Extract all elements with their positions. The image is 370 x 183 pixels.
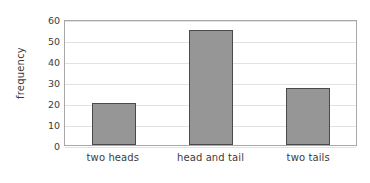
x-tick-label: head and tail <box>162 152 260 172</box>
y-tick-label: 30 <box>30 78 60 89</box>
bar[interactable] <box>189 30 233 146</box>
y-tick-label: 20 <box>30 99 60 110</box>
plot-area <box>64 20 357 146</box>
x-tick-label: two tails <box>259 152 357 172</box>
y-tick-label: 60 <box>30 15 60 26</box>
x-tick-label: two heads <box>64 152 162 172</box>
y-tick-label: 0 <box>30 141 60 152</box>
y-axis-tick-labels: 0102030405060 <box>30 20 60 146</box>
bar[interactable] <box>92 103 136 145</box>
bar-slot <box>162 21 259 145</box>
bar-slot <box>259 21 356 145</box>
y-tick-label: 50 <box>30 36 60 47</box>
bar-series <box>65 21 356 145</box>
gridline <box>65 147 356 148</box>
bar-chart-figure: frequency 0102030405060 two headshead an… <box>0 0 370 183</box>
bar[interactable] <box>286 88 330 145</box>
y-tick-label: 40 <box>30 57 60 68</box>
y-axis-title: frequency <box>10 0 30 146</box>
x-axis-tick-labels: two headshead and tailtwo tails <box>64 152 357 172</box>
y-tick-label: 10 <box>30 120 60 131</box>
bar-slot <box>65 21 162 145</box>
